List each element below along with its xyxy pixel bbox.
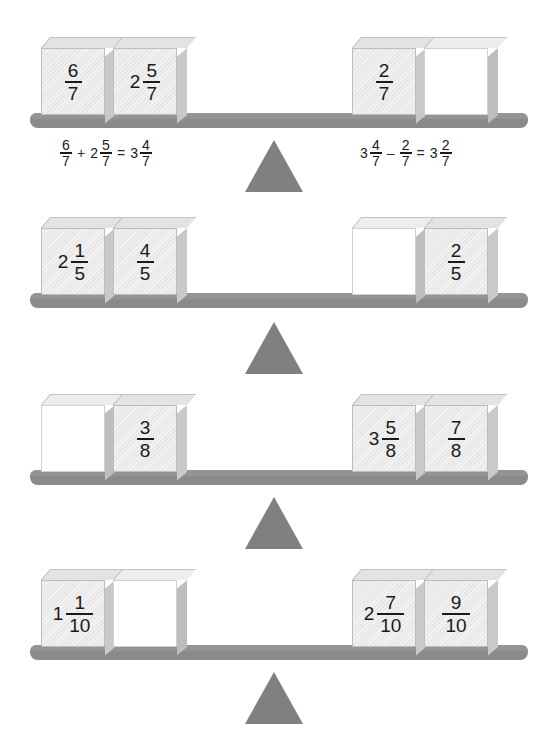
equation-left: 67+257=347	[60, 138, 152, 168]
mixed-number: 257	[90, 138, 112, 168]
block-top-face	[352, 569, 435, 580]
mixed-number: 78	[448, 418, 465, 460]
block-top-face	[424, 217, 507, 228]
block-side-face	[177, 228, 187, 303]
fraction-block-left[interactable]: 67	[41, 37, 115, 115]
fraction: 38	[137, 418, 154, 460]
whole-number: 3	[130, 146, 138, 160]
fraction-numerator: 7	[448, 418, 465, 438]
fraction-block-right[interactable]: 358	[352, 394, 426, 472]
fraction-numerator: 5	[143, 61, 160, 81]
equation-operator: =	[417, 146, 425, 160]
fraction-denominator: 7	[140, 154, 152, 168]
block-top-face	[41, 394, 124, 405]
whole-number: 2	[130, 72, 141, 91]
mixed-number: 1110	[53, 593, 94, 635]
mixed-number: 38	[137, 418, 154, 460]
fulcrum-triangle	[245, 497, 303, 549]
block-front-face: 38	[113, 405, 177, 472]
fraction-block-left[interactable]: 45	[113, 217, 187, 295]
fraction-block-right[interactable]: 910	[424, 569, 498, 647]
fraction-block-left[interactable]: 257	[113, 37, 187, 115]
block-top-face	[352, 37, 435, 48]
block-front-face	[41, 405, 105, 472]
block-top-face	[113, 37, 196, 48]
mixed-number: 910	[442, 593, 469, 635]
whole-number: 1	[53, 604, 64, 623]
fraction-denominator: 7	[370, 154, 382, 168]
fraction-denominator: 7	[440, 154, 452, 168]
fraction-block-right[interactable]: 2710	[352, 569, 426, 647]
fraction-numerator: 4	[137, 241, 154, 261]
fraction: 67	[65, 61, 82, 103]
fraction-block-right[interactable]: 78	[424, 394, 498, 472]
whole-number: 2	[90, 146, 98, 160]
fraction-denominator: 7	[376, 83, 393, 103]
block-top-face	[113, 394, 196, 405]
fraction-numerator: 7	[383, 593, 400, 613]
whole-number: 3	[360, 146, 368, 160]
fraction-block-left[interactable]: 1110	[41, 569, 115, 647]
block-front-face: 257	[113, 48, 177, 115]
fulcrum-triangle	[245, 322, 303, 374]
block-front-face: 45	[113, 228, 177, 295]
fraction-block-left[interactable]: 215	[41, 217, 115, 295]
block-top-face	[424, 37, 507, 48]
fraction-denominator: 10	[442, 615, 469, 635]
fraction-numerator: 1	[71, 241, 88, 261]
fraction-denominator: 7	[143, 83, 160, 103]
empty-block-right[interactable]	[352, 217, 426, 295]
equation-operator: =	[117, 146, 125, 160]
empty-block-left[interactable]	[113, 569, 187, 647]
fraction-denominator: 8	[382, 440, 399, 460]
fraction-numerator: 3	[137, 418, 154, 438]
block-front-face: 27	[352, 48, 416, 115]
fraction-denominator: 7	[60, 154, 72, 168]
mixed-number: 215	[58, 241, 89, 283]
fraction-denominator: 5	[137, 263, 154, 283]
empty-block-left[interactable]	[41, 394, 115, 472]
fraction: 15	[71, 241, 88, 283]
fraction-denominator: 7	[400, 154, 412, 168]
mixed-number: 2710	[364, 593, 405, 635]
fraction: 110	[66, 593, 93, 635]
fraction-numerator: 1	[72, 593, 89, 613]
mixed-number: 347	[360, 138, 382, 168]
mixed-number: 25	[448, 241, 465, 283]
block-front-face: 2710	[352, 580, 416, 647]
equation-operator: –	[387, 146, 395, 160]
block-front-face	[113, 580, 177, 647]
fraction-block-left[interactable]: 38	[113, 394, 187, 472]
block-top-face	[41, 217, 124, 228]
mixed-number: 347	[130, 138, 152, 168]
fraction-denominator: 5	[71, 263, 88, 283]
fraction: 25	[448, 241, 465, 283]
mixed-number: 358	[369, 418, 400, 460]
equation-operator: +	[77, 146, 85, 160]
fraction-block-right[interactable]: 25	[424, 217, 498, 295]
fraction-numerator: 2	[376, 61, 393, 81]
block-front-face: 25	[424, 228, 488, 295]
fraction-numerator: 6	[60, 138, 72, 152]
fraction-numerator: 2	[448, 241, 465, 261]
fraction-denominator: 8	[137, 440, 154, 460]
empty-block-right[interactable]	[424, 37, 498, 115]
fraction-denominator: 7	[100, 154, 112, 168]
whole-number: 3	[430, 146, 438, 160]
mixed-number: 257	[130, 61, 161, 103]
block-side-face	[177, 580, 187, 655]
fraction: 27	[400, 138, 412, 168]
block-top-face	[113, 217, 196, 228]
fraction: 27	[376, 61, 393, 103]
block-front-face: 67	[41, 48, 105, 115]
block-top-face	[352, 394, 435, 405]
block-top-face	[352, 217, 435, 228]
mixed-number: 27	[376, 61, 393, 103]
fraction: 67	[60, 138, 72, 168]
block-front-face: 1110	[41, 580, 105, 647]
fraction-block-right[interactable]: 27	[352, 37, 426, 115]
fraction: 45	[137, 241, 154, 283]
fraction: 57	[143, 61, 160, 103]
block-front-face	[352, 228, 416, 295]
block-side-face	[488, 48, 498, 123]
